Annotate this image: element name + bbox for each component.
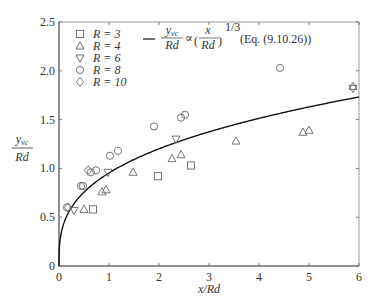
eq-paren-open: ( [194, 34, 198, 48]
eq-proportional: ∝ [185, 31, 193, 45]
triangle-up-marker [177, 151, 185, 158]
fit-curve [59, 97, 359, 266]
y-tick-label: 0 [49, 259, 55, 273]
y-tick-label: 0.5 [40, 210, 55, 224]
eq-paren-close: ) [218, 34, 222, 48]
triangle-up-marker [129, 168, 137, 175]
triangle-up-marker [80, 205, 88, 212]
diamond-legend-icon [76, 77, 83, 86]
triangle-up-legend-icon [76, 42, 84, 49]
x-tick-label: 2 [156, 270, 162, 284]
x-tick-label: 4 [256, 270, 262, 284]
y-label-denominator: Rd [14, 150, 29, 164]
square-marker [89, 206, 96, 213]
circle-marker [150, 123, 157, 130]
eq-denominator: Rd [164, 38, 179, 52]
y-tick-label: 2.0 [40, 64, 55, 78]
fit-curve-line [59, 97, 359, 266]
y-tick-label: 1.5 [40, 113, 55, 127]
scatter-chart: 012345600.51.01.52.02.5 R = 3R = 4R = 6R… [0, 0, 375, 302]
eq-reference: (Eq. (9.10.26)) [240, 32, 311, 46]
legend-label: R = 10 [92, 75, 126, 89]
x-axis-label: x/Rd [197, 282, 221, 296]
triangle-up-marker [305, 126, 313, 133]
y-tick-label: 1.0 [40, 161, 55, 175]
square-legend-icon [76, 30, 83, 37]
square-marker [187, 162, 194, 169]
eq-paren-denominator: Rd [200, 38, 215, 52]
eq-paren-numerator: x [204, 23, 211, 37]
circle-marker [106, 152, 113, 159]
y-label-numerator: yvc [15, 132, 29, 147]
x-tick-label: 1 [106, 270, 112, 284]
series-r4 [80, 82, 357, 212]
x-tick-label: 0 [56, 270, 62, 284]
circle-legend-icon [76, 66, 83, 73]
y-axis-label: yvc Rd [12, 132, 33, 164]
eq-numerator: yvc [165, 23, 179, 38]
x-tick-label: 6 [356, 270, 362, 284]
triangle-up-marker [232, 137, 240, 144]
legend: R = 3R = 4R = 6R = 8R = 10 [76, 27, 126, 89]
x-tick-label: 5 [306, 270, 312, 284]
circle-marker [114, 147, 121, 154]
y-tick-label: 2.5 [40, 15, 55, 29]
square-marker [154, 173, 161, 180]
triangle-down-legend-icon [76, 55, 84, 62]
eq-exponent: 1/3 [225, 20, 240, 34]
curve-legend: yvc Rd ∝ ( x Rd ) 1/3 (Eq. (9.10.26)) [143, 20, 311, 52]
series-r6 [70, 85, 357, 214]
axis-ticks: 012345600.51.01.52.02.5 [40, 15, 362, 284]
triangle-up-marker [168, 154, 176, 161]
circle-marker [276, 64, 283, 71]
